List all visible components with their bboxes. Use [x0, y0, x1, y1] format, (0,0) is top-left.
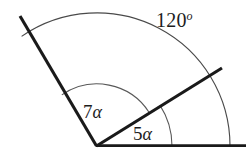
angle-label-7-alpha: 7α: [83, 102, 102, 121]
angle-diagram: 120o 7α 5α: [0, 0, 251, 151]
alpha-symbol-icon: α: [93, 102, 102, 122]
alpha-symbol-icon: α: [143, 124, 152, 144]
small-arc-5alpha: [160, 105, 172, 146]
angle-label-5-alpha: 5α: [133, 124, 152, 143]
degree-symbol-icon: o: [187, 9, 193, 23]
angle-label-120-value: 120: [156, 9, 187, 31]
angle-label-7-alpha-coefficient: 7: [83, 101, 93, 122]
angle-label-5-alpha-coefficient: 5: [133, 123, 143, 144]
angle-label-120-degrees: 120o: [156, 10, 193, 30]
diagram-canvas: [0, 0, 251, 151]
middle-ray: [97, 68, 223, 146]
upper-left-ray: [20, 16, 97, 146]
